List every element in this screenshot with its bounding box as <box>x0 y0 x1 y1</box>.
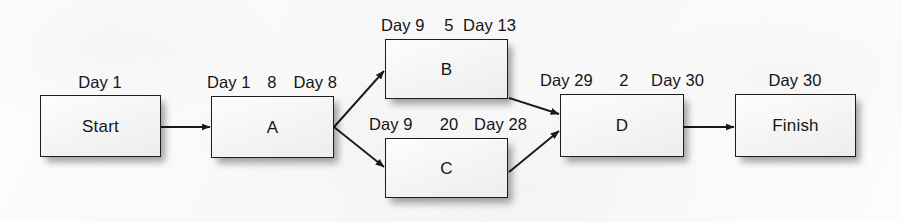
node-d-early-finish-label: Day 30 <box>651 72 704 89</box>
node-c-duration-label: 20 <box>440 116 459 133</box>
node-d-duration-label: 2 <box>619 72 628 89</box>
node-c-label: C <box>440 160 452 177</box>
start-node-early-start-label: Day 1 <box>78 74 122 91</box>
node-b-duration-label: 5 <box>444 17 453 34</box>
node-b-label: B <box>441 61 453 78</box>
node-a[interactable]: A <box>211 96 334 158</box>
edge-b-to-d <box>509 98 559 114</box>
node-d[interactable]: D <box>560 94 684 157</box>
node-a-early-finish-label: Day 8 <box>293 74 337 91</box>
edge-c-to-d <box>509 131 559 172</box>
node-b-early-finish-label: Day 13 <box>463 17 516 34</box>
node-b-early-start-label: Day 9 <box>381 17 425 34</box>
node-finish-early-start-label: Day 30 <box>769 72 822 89</box>
node-start[interactable]: Start <box>40 95 161 157</box>
node-finish-label: Finish <box>772 117 819 134</box>
network-diagram-canvas: Day 1 Start Day 1 8 Day 8 A Day 9 5 Day … <box>0 0 902 222</box>
node-a-label: A <box>267 119 279 136</box>
node-a-duration-label: 8 <box>267 74 276 91</box>
node-d-label: D <box>616 117 628 134</box>
node-c-early-finish-label: Day 28 <box>474 116 527 133</box>
node-finish[interactable]: Finish <box>735 94 856 157</box>
node-b[interactable]: B <box>385 39 508 99</box>
node-d-early-start-label: Day 29 <box>540 72 593 89</box>
node-a-early-start-label: Day 1 <box>207 74 251 91</box>
node-start-label: Start <box>82 118 119 135</box>
node-c-early-start-label: Day 9 <box>369 116 413 133</box>
node-c[interactable]: C <box>385 138 508 198</box>
edge-a-to-c <box>334 127 384 167</box>
